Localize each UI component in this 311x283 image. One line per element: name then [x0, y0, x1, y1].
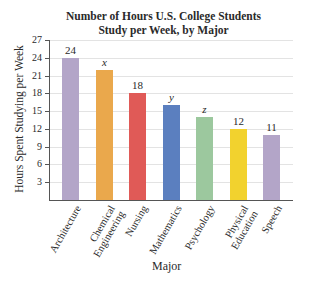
bar-value-label: x — [90, 57, 120, 68]
bar-physical-education — [230, 129, 247, 200]
y-axis — [49, 40, 50, 201]
y-tick — [45, 93, 50, 94]
bar-value-label: 18 — [123, 80, 153, 91]
x-tick-label: Nursing — [123, 204, 149, 239]
chart-title-line-1: Number of Hours U.S. College Students — [8, 10, 311, 23]
x-tick-label-line: Psychology — [183, 204, 217, 252]
bar-psychology — [196, 117, 213, 200]
y-tick — [45, 164, 50, 165]
chart-title-line-2: Study per Week, by Major — [8, 24, 311, 37]
x-axis — [49, 200, 293, 201]
bar-value-label: 11 — [257, 122, 287, 133]
bar-value-label: z — [190, 104, 220, 115]
y-tick-label: 12 — [22, 124, 42, 134]
x-tick-label: Architecture — [48, 204, 83, 255]
x-tick-label: Psychology — [183, 204, 217, 252]
bar-chemical-engineering — [96, 70, 113, 200]
y-tick — [45, 111, 50, 112]
bar-value-label: 12 — [224, 116, 254, 127]
bar-value-label: y — [157, 92, 187, 103]
bar-mathematics — [163, 105, 180, 200]
x-tick-label-line: Nursing — [123, 204, 149, 239]
y-tick-label: 27 — [22, 35, 42, 45]
bar-architecture — [62, 58, 79, 200]
y-tick-label: 18 — [22, 88, 42, 98]
y-tick — [45, 58, 50, 59]
gridline — [50, 76, 293, 77]
x-tick-label-line: Speech — [260, 204, 284, 236]
bar-nursing — [129, 93, 146, 200]
y-tick-label: 3 — [22, 177, 42, 187]
y-tick-label: 21 — [22, 71, 42, 81]
x-tick-label-line: Architecture — [48, 204, 83, 255]
bar-speech — [263, 135, 280, 200]
y-tick-label: 6 — [22, 159, 42, 169]
x-tick-label-line: Mathematics — [148, 204, 184, 256]
y-tick-label: 24 — [22, 53, 42, 63]
x-tick-label: ChemicalEngineering — [82, 204, 126, 259]
bar-value-label: 24 — [56, 45, 86, 56]
y-tick — [45, 182, 50, 183]
gridline — [50, 40, 293, 41]
y-tick — [45, 76, 50, 77]
y-tick — [45, 147, 50, 148]
y-tick-label: 15 — [22, 106, 42, 116]
y-axis-label: Hours Spent Studying per Week — [13, 44, 25, 194]
x-tick-label: Mathematics — [148, 204, 184, 256]
x-tick-label: Speech — [260, 204, 284, 236]
gridline — [50, 58, 293, 59]
x-tick-label: PhysicalEducation — [220, 204, 259, 251]
y-tick — [45, 40, 50, 41]
y-tick-label: 9 — [22, 142, 42, 152]
y-tick — [45, 129, 50, 130]
x-axis-label: Major — [152, 259, 181, 274]
